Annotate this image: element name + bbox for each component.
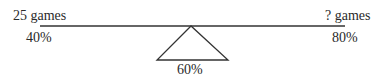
right-percent-label: 80% bbox=[332, 31, 358, 45]
fulcrum-triangle bbox=[157, 26, 228, 60]
right-quantity-label: ? games bbox=[325, 9, 370, 23]
fulcrum-percent-label: 60% bbox=[177, 63, 203, 77]
left-percent-label: 40% bbox=[26, 31, 52, 45]
left-quantity-label: 25 games bbox=[13, 9, 66, 23]
